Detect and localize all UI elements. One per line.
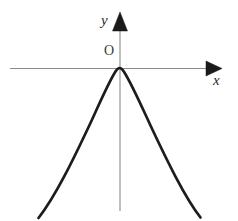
- origin-label: O: [104, 44, 114, 58]
- x-axis-label: x: [213, 73, 220, 88]
- y-axis-label: y: [101, 13, 108, 28]
- parabola-figure: y x O: [0, 0, 238, 221]
- coordinate-plane-svg: [0, 0, 238, 221]
- arrow-up-icon: [113, 12, 128, 31]
